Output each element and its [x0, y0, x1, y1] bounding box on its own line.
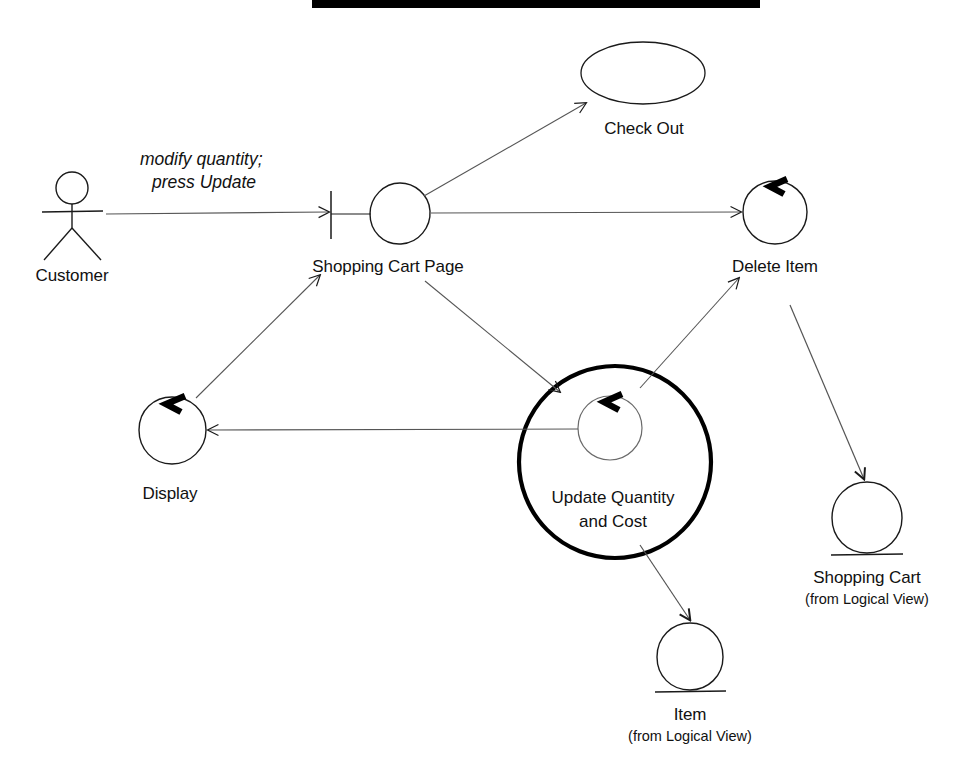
- boundary-circle-icon: [370, 183, 430, 244]
- label-customer: Customer: [36, 265, 109, 286]
- link-shopping-cart-page-to-check-out[interactable]: [424, 103, 586, 196]
- actor-customer[interactable]: [42, 172, 103, 260]
- control-display[interactable]: [139, 396, 206, 464]
- entity-item[interactable]: [655, 623, 726, 692]
- control-arrow-chevron-icon: [166, 396, 185, 412]
- message-line-1: modify quantity;: [140, 149, 263, 169]
- label-shopping-cart-page: Shopping Cart Page: [312, 256, 463, 277]
- entity-shopping-cart[interactable]: [831, 482, 903, 555]
- message-label-modify-quantity: modify quantity; press Update: [140, 148, 263, 194]
- diagram-vector-layer: [0, 0, 977, 775]
- black-redaction-bar: [312, 0, 760, 8]
- label-check-out: Check Out: [604, 118, 683, 139]
- entity-circle-icon: [832, 482, 902, 553]
- uml-collaboration-diagram-canvas: modify quantity; press Update Customer C…: [0, 0, 977, 775]
- label-update-quantity-line-2: and Cost: [579, 512, 647, 531]
- link-display-to-shopping-cart-page[interactable]: [196, 275, 320, 398]
- entity-circle-icon: [657, 623, 723, 690]
- link-customer-to-shopping-cart-page[interactable]: [106, 212, 329, 214]
- boundary-shopping-cart-page[interactable]: [331, 183, 430, 244]
- message-line-2: press Update: [140, 171, 263, 194]
- label-shopping-cart: Shopping Cart: [813, 567, 920, 588]
- link-update-quantity-to-item[interactable]: [640, 545, 690, 620]
- link-shopping-cart-page-to-delete-item[interactable]: [431, 212, 741, 213]
- link-delete-item-to-shopping-cart[interactable]: [790, 305, 864, 479]
- label-item: Item: [674, 704, 707, 725]
- entity-base-line-icon: [655, 691, 726, 692]
- link-shopping-cart-page-to-update-quantity[interactable]: [425, 281, 560, 392]
- use-case-check-out-ellipse[interactable]: [581, 42, 705, 104]
- actor-right-leg-icon: [72, 228, 101, 260]
- control-delete-item[interactable]: [743, 179, 807, 244]
- label-update-quantity-line-1: Update Quantity: [552, 488, 675, 507]
- sublabel-shopping-cart: (from Logical View): [805, 590, 929, 609]
- sublabel-item: (from Logical View): [628, 727, 752, 746]
- label-display: Display: [142, 483, 197, 504]
- link-update-quantity-to-delete-item[interactable]: [640, 278, 739, 388]
- actor-head-icon: [56, 172, 88, 204]
- entity-base-line-icon: [831, 554, 903, 555]
- actor-left-leg-icon: [44, 228, 72, 260]
- label-delete-item: Delete Item: [732, 256, 818, 277]
- label-update-quantity-and-cost: Update Quantity and Cost: [552, 486, 675, 534]
